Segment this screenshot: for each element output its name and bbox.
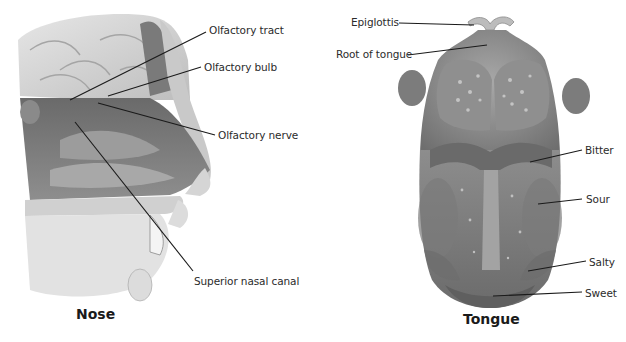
left-tonsil bbox=[398, 70, 426, 106]
median-sulcus bbox=[482, 170, 500, 270]
label-olfactory-tract: Olfactory tract bbox=[209, 24, 284, 36]
epiglottis bbox=[468, 17, 514, 30]
label-salty: Salty bbox=[589, 256, 615, 268]
label-sour: Sour bbox=[586, 193, 610, 205]
label-olfactory-bulb: Olfactory bulb bbox=[204, 61, 277, 73]
caption-tongue: Tongue bbox=[463, 311, 520, 327]
tongue-illustration bbox=[0, 0, 626, 342]
label-root-of-tongue: Root of tongue bbox=[336, 48, 412, 60]
sour-zone-right bbox=[522, 178, 562, 258]
caption-nose: Nose bbox=[76, 306, 115, 322]
label-bitter: Bitter bbox=[585, 144, 614, 156]
anatomy-diagram: Olfactory tract Olfactory bulb Olfactory… bbox=[0, 0, 626, 342]
label-epiglottis: Epiglottis bbox=[351, 16, 399, 28]
label-superior-nasal-canal: Superior nasal canal bbox=[194, 275, 299, 287]
right-tonsil bbox=[562, 78, 590, 114]
label-olfactory-nerve: Olfactory nerve bbox=[218, 129, 298, 141]
sour-zone-left bbox=[418, 178, 458, 258]
label-sweet: Sweet bbox=[585, 287, 617, 299]
